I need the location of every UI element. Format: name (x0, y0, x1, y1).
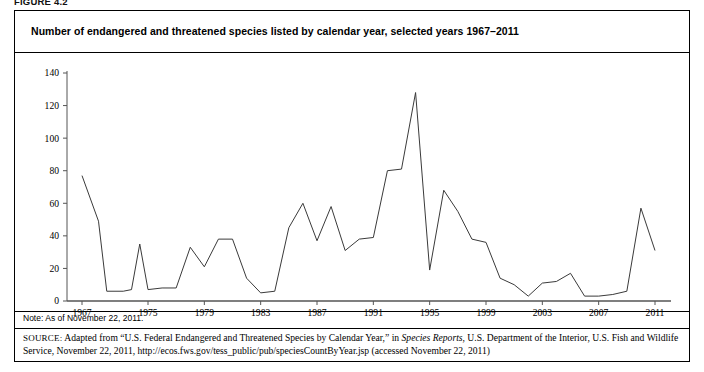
figure-page: FIGURE 4.2 Number of endangered and thre… (0, 0, 704, 372)
y-axis-tick-label: 80 (49, 165, 59, 176)
y-axis-tick-label: 0 (54, 295, 59, 306)
x-axis-tick-label: 1991 (364, 307, 383, 318)
x-axis-tick-label: 1987 (307, 307, 326, 318)
figure-number-label: FIGURE 4.2 (14, 0, 68, 6)
title-divider (15, 52, 689, 53)
y-axis-tick-label: 20 (49, 263, 59, 274)
x-axis-tick-label: 1983 (251, 307, 270, 318)
chart-note: Note: As of November 22, 2011. (23, 313, 143, 323)
source-text-part1: Adapted from “U.S. Federal Endangered an… (62, 332, 401, 343)
chart-title: Number of endangered and threatened spec… (31, 25, 671, 38)
series-line-species-listed (82, 93, 655, 297)
source-publication-title: Species Reports (402, 332, 463, 343)
line-chart: 0204060801001201401967197519791983198719… (31, 57, 675, 319)
x-axis-tick-label: 1979 (195, 307, 214, 318)
source-label: SOURCE: (23, 333, 62, 343)
chart-source: SOURCE: Adapted from “U.S. Federal Endan… (23, 332, 685, 357)
plot-area: 0204060801001201401967197519791983198719… (31, 57, 675, 319)
note-divider (15, 311, 689, 312)
x-axis-tick-label: 2007 (589, 307, 608, 318)
x-axis-tick-label: 2011 (646, 307, 665, 318)
x-axis-tick-label: 1995 (420, 307, 439, 318)
figure-frame: Number of endangered and threatened spec… (14, 10, 690, 362)
y-axis-tick-label: 100 (45, 133, 60, 144)
x-axis-tick-label: 2003 (533, 307, 552, 318)
y-axis-tick-label: 60 (49, 198, 59, 209)
y-axis-tick-label: 40 (49, 230, 59, 241)
y-axis-tick-label: 120 (45, 100, 60, 111)
x-axis-tick-label: 1999 (476, 307, 495, 318)
source-divider (15, 328, 689, 329)
y-axis-tick-label: 140 (45, 67, 60, 78)
